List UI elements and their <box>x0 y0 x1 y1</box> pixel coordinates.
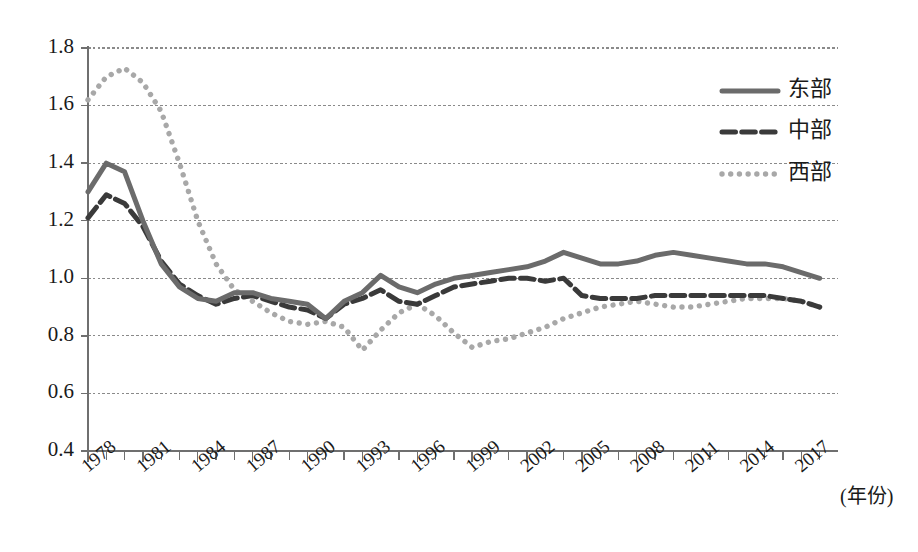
x-tick-label: 1987 <box>242 436 285 477</box>
y-tick-label: 0.4 <box>48 437 75 461</box>
y-tick-label: 1.0 <box>48 264 74 288</box>
y-tick-label: 1.4 <box>48 149 75 173</box>
x-tick-label: 2002 <box>516 436 559 477</box>
x-tick-label: 2017 <box>790 436 833 477</box>
x-tick-label: 1978 <box>77 436 120 477</box>
x-tick-label: 1984 <box>187 435 230 476</box>
y-tick-label: 0.8 <box>48 322 74 346</box>
x-tick-label: 2014 <box>736 435 779 476</box>
x-tick-label: 1996 <box>406 436 449 477</box>
series-line-3 <box>88 68 820 350</box>
legend-group: 东部中部西部 <box>722 76 832 184</box>
chart-canvas: 1.81.61.41.21.00.80.60.4 197819811984198… <box>0 0 918 552</box>
x-axis-title: (年份) <box>840 485 893 508</box>
x-tick-label: 1993 <box>351 436 394 477</box>
x-tick-labels-group: 1978198119841987199019931996199920022005… <box>77 435 833 476</box>
legend-label-1: 东部 <box>788 76 832 101</box>
line-chart-figure: 1.81.61.41.21.00.80.60.4 197819811984198… <box>0 0 918 552</box>
x-tick-label: 2005 <box>571 436 614 477</box>
axis-group <box>81 46 838 462</box>
x-tick-label: 2008 <box>626 436 669 477</box>
y-tick-label: 0.6 <box>48 379 74 403</box>
x-tick-label: 1999 <box>461 436 504 477</box>
y-tick-label: 1.6 <box>48 91 74 115</box>
y-tick-label: 1.2 <box>48 207 74 231</box>
y-tick-label: 1.8 <box>48 34 74 58</box>
legend-label-2: 中部 <box>788 117 832 142</box>
x-tick-label: 1990 <box>297 436 340 477</box>
x-tick-label: 2011 <box>681 436 723 476</box>
x-tick-label: 1981 <box>132 436 175 477</box>
x-axis-title-group: (年份) <box>840 485 893 508</box>
legend-label-3: 西部 <box>788 159 832 184</box>
data-series-group <box>88 68 820 350</box>
y-tick-labels-group: 1.81.61.41.21.00.80.60.4 <box>48 34 75 461</box>
gridlines-group <box>88 48 838 451</box>
